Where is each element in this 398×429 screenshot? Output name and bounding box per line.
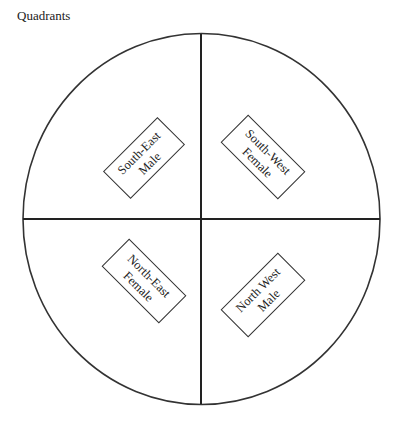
- label-south-east-male: South-East Male: [104, 118, 185, 199]
- label-south-west-female: South-West Female: [221, 115, 304, 198]
- quadrant-diagram: South-East Male South-West Female North-…: [0, 0, 398, 429]
- label-north-west-male: North West Male: [221, 253, 304, 336]
- label-north-east-female: North-East Female: [102, 239, 185, 322]
